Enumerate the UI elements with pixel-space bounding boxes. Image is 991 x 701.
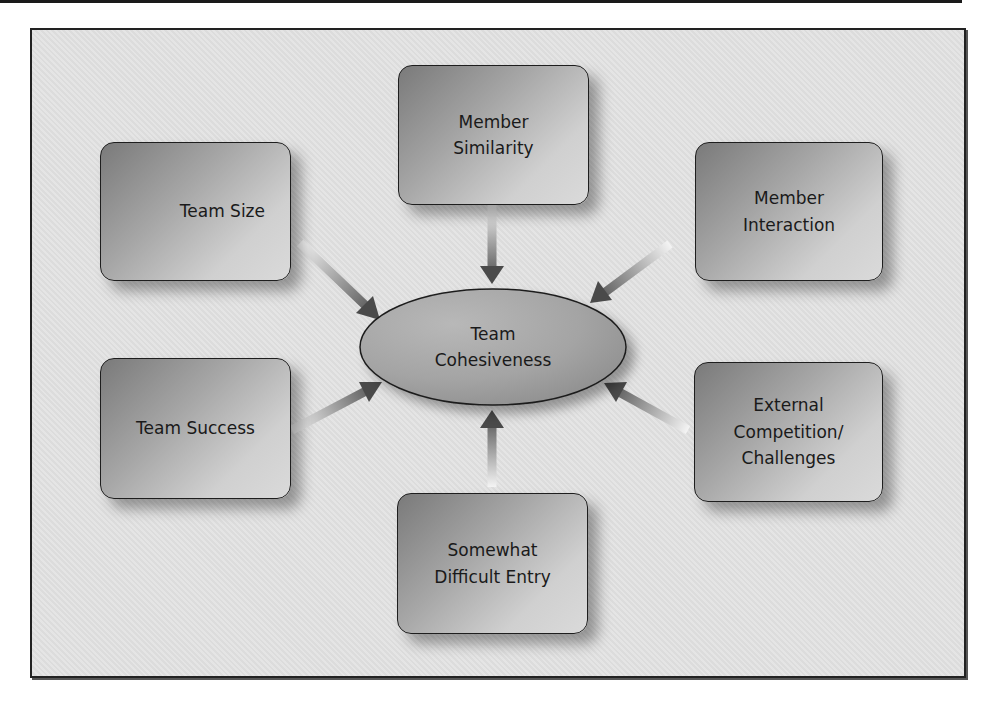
factor-label: Team Success xyxy=(136,415,255,441)
factor-box-member-interaction: Member Interaction xyxy=(695,142,883,281)
factor-label: Member Interaction xyxy=(743,185,835,238)
factor-label: Somewhat Difficult Entry xyxy=(434,537,550,590)
arrow-difficult-entry xyxy=(480,410,504,487)
center-label-team-cohesiveness: Team Cohesiveness xyxy=(360,289,626,405)
factor-label: External Competition/ Challenges xyxy=(734,392,844,471)
factor-box-member-similarity: Member Similarity xyxy=(398,65,589,205)
arrow-member-similarity xyxy=(480,205,504,284)
factor-label: Member Similarity xyxy=(453,109,533,162)
factor-box-team-size: Team Size xyxy=(100,142,291,281)
factor-label: Team Size xyxy=(180,198,265,224)
factor-box-difficult-entry: Somewhat Difficult Entry xyxy=(397,493,588,634)
factor-box-external-competition: External Competition/ Challenges xyxy=(694,362,883,502)
factor-box-team-success: Team Success xyxy=(100,358,291,499)
